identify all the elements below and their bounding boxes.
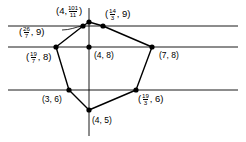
fraction-14-3: 143 bbox=[108, 8, 116, 21]
point-upper-right bbox=[100, 23, 105, 28]
point-center bbox=[86, 44, 91, 49]
fraction-101-11: 10111 bbox=[67, 5, 78, 18]
label-apex-suffix: ) bbox=[79, 5, 82, 16]
label-mid-left: (197, 8) bbox=[26, 51, 51, 64]
fraction-denominator: 7 bbox=[31, 57, 35, 64]
fraction-19-7: 197 bbox=[29, 51, 37, 64]
fraction-denominator: 3 bbox=[110, 14, 114, 21]
point-lower-right bbox=[133, 87, 138, 92]
point-upper-left bbox=[80, 23, 85, 28]
label-upper-left: (267, 9) bbox=[19, 26, 44, 39]
fraction-26-7: 267 bbox=[22, 26, 30, 39]
label-lower-left: (3, 6) bbox=[42, 95, 62, 104]
fraction-denominator: 3 bbox=[143, 99, 147, 106]
geometry-figure: (4,10111) (143, 9) (267, 9) (197, 8) (4,… bbox=[0, 0, 246, 142]
fraction-denominator: 11 bbox=[69, 11, 76, 18]
label-bottom: (4, 5) bbox=[92, 116, 112, 125]
label-mid-left-suffix: , 8) bbox=[38, 51, 52, 62]
point-lower-left bbox=[66, 87, 71, 92]
point-apex bbox=[86, 19, 91, 24]
label-upper-right-suffix: , 9) bbox=[117, 8, 131, 19]
label-mid-right: (7, 8) bbox=[159, 51, 179, 60]
label-lower-right-suffix: , 6) bbox=[150, 93, 164, 104]
label-upper-right: (143, 9) bbox=[105, 8, 130, 21]
point-mid-right bbox=[149, 44, 154, 49]
label-lower-right: (193, 6) bbox=[138, 93, 163, 106]
fraction-denominator: 7 bbox=[24, 32, 28, 39]
label-center: (4, 8) bbox=[94, 51, 114, 60]
point-bottom bbox=[86, 107, 91, 112]
point-mid-left bbox=[53, 44, 58, 49]
fraction-19-3: 193 bbox=[141, 93, 149, 106]
label-upper-left-suffix: , 9) bbox=[31, 26, 45, 37]
label-apex: (4,10111) bbox=[56, 5, 82, 18]
label-apex-prefix: (4, bbox=[56, 5, 67, 16]
